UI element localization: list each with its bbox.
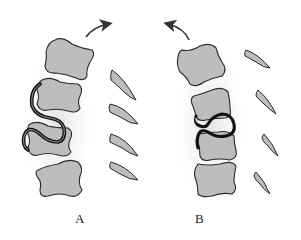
spinous-process [256,90,276,114]
panel-label-b: B [195,212,204,225]
spinous-process [110,162,138,180]
spinous-process [111,70,136,100]
spinous-process [109,104,138,124]
spinous-process [254,172,270,194]
vertebra [194,162,236,196]
panel-a [16,24,138,220]
panel-b [168,24,278,220]
rotation-arrow-icon [86,24,108,37]
vertebra [37,78,82,112]
spinous-process [245,50,270,68]
spine-diagram [0,0,301,240]
rotation-arrow-icon [168,24,189,40]
spinous-process [262,134,278,156]
vertebra [45,39,94,80]
spinous-process [110,134,138,156]
panel-label-a: A [75,212,84,225]
